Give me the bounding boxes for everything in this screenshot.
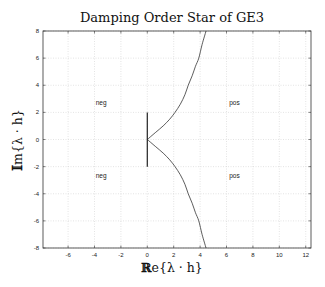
y-tick-label: 2 [36,109,40,115]
y-axis-label: 𝕀m{λ · h} [10,109,25,171]
y-tick-label: 6 [36,55,40,61]
region-label-neg: neg [96,99,107,107]
y-tick-label: -8 [34,245,40,251]
y-tick-label: 0 [36,137,40,143]
x-tick-label: -4 [92,252,98,258]
y-tick-label: -6 [34,218,40,224]
region-label-neg: neg [96,172,107,180]
y-tick-label: -2 [34,164,40,170]
chart-title: Damping Order Star of GE3 [80,10,264,25]
y-tick-label: 4 [36,82,40,88]
x-tick-label: 0 [146,252,150,258]
y-tick-label: -4 [34,191,40,197]
x-tick-label: 6 [225,252,229,258]
axis-ticks: -6-4-2024681012-8-6-4-202468 [34,28,311,258]
real-part-symbol: ℝ [141,260,152,275]
x-tick-label: 4 [198,252,202,258]
x-tick-label: 8 [251,252,255,258]
y-tick-label: 8 [36,28,40,34]
y-axis-label-text: m{λ · h} [10,109,25,165]
x-axis-label: ℝe{λ · h} [141,260,203,275]
x-tick-label: -2 [118,252,124,258]
x-tick-label: 10 [276,252,283,258]
region-label-pos: pos [229,99,240,107]
x-tick-label: -6 [65,252,71,258]
grid-lines [43,31,311,248]
order-star-chart: Damping Order Star of GE3 -6-4-202468101… [0,0,325,287]
x-tick-label: 2 [172,252,176,258]
x-tick-label: 12 [302,252,309,258]
x-axis-label-text: e{λ · h} [152,260,203,275]
region-label-pos: pos [229,172,240,180]
